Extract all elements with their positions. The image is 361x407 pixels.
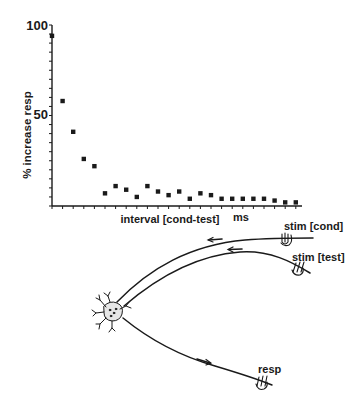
stim-test-label: stim [test]	[292, 251, 345, 263]
data-points	[50, 34, 298, 205]
data-point	[272, 198, 276, 202]
resp-label: resp	[258, 363, 282, 375]
data-point	[198, 191, 202, 195]
data-point	[188, 197, 192, 201]
data-point	[262, 197, 266, 201]
data-point	[283, 200, 287, 204]
output-axon	[123, 318, 272, 385]
data-point	[251, 197, 255, 201]
data-point	[71, 130, 75, 134]
data-point	[50, 34, 54, 38]
data-point	[82, 157, 86, 161]
data-point	[219, 197, 223, 201]
y-axis-label: % increase resp	[21, 91, 33, 179]
test-axon	[124, 252, 310, 306]
data-point	[124, 188, 128, 192]
arrow-left-icon	[208, 238, 222, 243]
data-point	[294, 200, 298, 204]
stim-cond-electrode-icon	[281, 233, 292, 246]
y-tick-label-100: 100	[26, 18, 48, 33]
y-axis-ticks	[49, 25, 52, 206]
data-point	[166, 193, 170, 197]
data-point	[135, 195, 139, 199]
data-point	[60, 99, 64, 103]
data-point	[209, 193, 213, 197]
data-point	[145, 184, 149, 188]
data-point	[103, 191, 107, 195]
data-point	[177, 189, 181, 193]
cond-axon	[117, 238, 313, 302]
neuron-diagram: stim [cond] stim [test] resp	[92, 220, 345, 389]
x-axis-unit: ms	[233, 211, 249, 223]
figure: 100 50 % increase resp interval [cond-te…	[0, 0, 361, 407]
stim-cond-label: stim [cond]	[284, 220, 344, 232]
x-axis-label: interval [cond-test]	[120, 213, 219, 225]
data-point	[92, 164, 96, 168]
data-point	[113, 184, 117, 188]
data-point	[230, 197, 234, 201]
data-point	[241, 197, 245, 201]
data-point	[156, 189, 160, 193]
neuron-icon	[92, 292, 131, 332]
resp-electrode-icon	[256, 376, 267, 389]
arrow-left-icon	[228, 247, 242, 252]
y-tick-label-50: 50	[34, 107, 48, 122]
scatter-chart: 100 50 % increase resp interval [cond-te…	[21, 18, 302, 225]
